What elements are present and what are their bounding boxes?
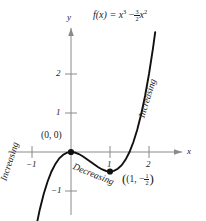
title-var: (x) = — [96, 9, 116, 20]
y-axis-arrow — [68, 28, 74, 36]
function-graph-figure: f(x) = x3 −32x2 x y −1 1 2 2 1 −1 (0, 0)… — [0, 0, 206, 221]
x-tick-label-2: 2 — [146, 160, 151, 169]
x-tick-label--1: −1 — [26, 160, 37, 169]
point-label-origin: (0, 0) — [41, 131, 62, 141]
local-min-x: (1, — [126, 174, 136, 184]
title-term1-exp: 3 — [123, 8, 126, 15]
point-label-local-min: ((1, −12) — [122, 172, 154, 186]
x-axis-arrow — [174, 149, 182, 155]
function-title: f(x) = x3 −32x2 — [93, 8, 147, 22]
y-tick-label-1: 1 — [56, 108, 61, 117]
title-term2-exp: 2 — [144, 8, 147, 15]
local-min-paren-open: ( — [122, 171, 126, 186]
y-tick-label-2: 2 — [56, 69, 61, 78]
x-tick-label-1: 1 — [107, 160, 112, 169]
title-coefficient-fraction: 32 — [134, 9, 139, 23]
graph-canvas — [0, 0, 206, 221]
title-coef-denominator: 2 — [134, 15, 139, 22]
point-marker-origin — [68, 149, 74, 155]
local-min-paren-close: ) — [149, 171, 153, 186]
y-tick-label--1: −1 — [51, 186, 62, 195]
x-axis-label: x — [187, 147, 191, 156]
y-axis-label: y — [67, 13, 71, 22]
